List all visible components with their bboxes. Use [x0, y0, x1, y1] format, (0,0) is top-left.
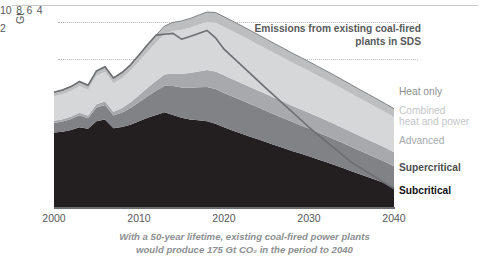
y-tick-4: 4: [37, 4, 43, 16]
x-tick-2030: 2030: [297, 212, 320, 224]
y-axis-tick-labels: 10 8 6 4 2: [0, 0, 48, 261]
annotation-line-2: plants in SDS: [228, 35, 421, 48]
figure-caption: With a 50-year lifetime, existing coal-f…: [0, 230, 489, 256]
legend-label-heat-only: Heat only: [399, 86, 442, 97]
x-tick-2020: 2020: [212, 212, 235, 224]
y-tick-2: 2: [0, 22, 6, 34]
x-axis-line: [54, 207, 395, 209]
x-tick-2010: 2010: [127, 212, 150, 224]
legend-item-subcritical: Subcritical: [399, 185, 489, 196]
stacked-area-plot: [54, 22, 394, 208]
legend-label-chp-line-1: Combined: [399, 105, 445, 116]
legend-label-supercritical: Supercritical: [399, 162, 461, 173]
plot-area: [54, 22, 394, 208]
legend-item-heat-only: Heat only: [399, 86, 489, 97]
y-tick-8: 8: [16, 4, 22, 16]
legend-label-subcritical: Subcritical: [399, 185, 451, 196]
legend: Heat only Combined heat and power Advanc…: [399, 0, 489, 261]
legend-item-combined-heat-and-power: Combined heat and power: [399, 105, 489, 127]
legend-item-supercritical: Supercritical: [399, 162, 489, 173]
y-tick-10: 10: [0, 4, 12, 16]
chart-figure: Gt 10 8 6 4 2 2000 2010 2020 2030 2040 E…: [0, 0, 489, 261]
legend-item-advanced: Advanced: [399, 135, 489, 146]
y-tick-6: 6: [26, 4, 32, 16]
legend-label-chp-line-2: heat and power: [399, 116, 489, 127]
caption-line-1: With a 50-year lifetime, existing coal-f…: [0, 230, 489, 243]
caption-line-2: would produce 175 Gt CO₂ in the period t…: [0, 243, 489, 256]
sds-line-annotation: Emissions from existing coal-fired plant…: [228, 22, 421, 48]
x-tick-2000: 2000: [42, 212, 65, 224]
legend-label-advanced: Advanced: [399, 135, 444, 146]
annotation-line-1: Emissions from existing coal-fired: [228, 22, 421, 35]
